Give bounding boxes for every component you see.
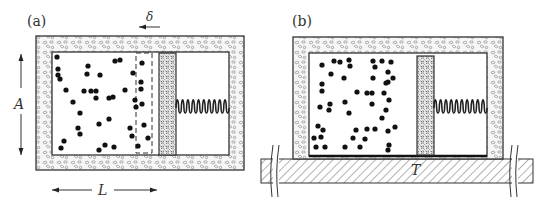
gas-particle bbox=[346, 57, 351, 62]
gas-particle bbox=[93, 95, 98, 100]
gas-particle bbox=[117, 57, 122, 62]
gas-particle bbox=[350, 135, 355, 140]
gas-particle bbox=[320, 127, 325, 132]
gas-particle bbox=[370, 58, 375, 63]
gas-particle bbox=[388, 59, 393, 64]
spring-icon bbox=[176, 100, 229, 113]
gas-particle bbox=[369, 90, 374, 95]
gas-particle bbox=[364, 90, 369, 95]
gas-particle bbox=[379, 115, 384, 120]
gas-particle bbox=[122, 87, 127, 92]
gas-particle bbox=[385, 147, 390, 152]
gas-particle bbox=[313, 144, 318, 149]
gas-particle bbox=[319, 88, 324, 93]
gas-particle bbox=[139, 101, 144, 106]
gas-particle bbox=[311, 135, 316, 140]
gas-particle bbox=[111, 144, 116, 149]
gas-particle bbox=[331, 58, 336, 63]
gas-particle bbox=[362, 136, 367, 141]
gas-particle bbox=[102, 142, 107, 147]
length-arrow-left-head-icon bbox=[52, 188, 59, 193]
gas-particle bbox=[326, 107, 331, 112]
gas-particle bbox=[385, 128, 390, 133]
gas-particle bbox=[390, 75, 395, 80]
gas-particle bbox=[138, 79, 143, 84]
gas-particle bbox=[319, 62, 324, 67]
gas-particle bbox=[317, 104, 322, 109]
gas-particle bbox=[322, 144, 327, 149]
gas-particle bbox=[319, 81, 324, 86]
gas-particle bbox=[133, 104, 138, 109]
gas-particle bbox=[364, 126, 369, 131]
gas-particle bbox=[96, 147, 101, 152]
gas-particle bbox=[127, 125, 132, 130]
height-arrow-down-head-icon bbox=[19, 148, 24, 155]
gas-particle bbox=[379, 58, 384, 63]
heat-reservoir bbox=[261, 159, 533, 183]
gas-particle bbox=[385, 69, 390, 74]
gas-particle bbox=[337, 59, 342, 64]
gas-particle bbox=[63, 87, 68, 92]
gas-particle bbox=[139, 60, 144, 65]
gas-particle bbox=[347, 63, 352, 68]
gas-particle bbox=[318, 134, 323, 139]
gas-particle bbox=[77, 131, 82, 136]
gas-particle bbox=[354, 89, 359, 94]
piston bbox=[417, 56, 434, 155]
gas-particle bbox=[75, 125, 80, 130]
gas-particle bbox=[372, 64, 377, 69]
gas-particle bbox=[81, 88, 86, 93]
gas-particle bbox=[145, 135, 150, 140]
gas-particle bbox=[57, 76, 62, 81]
delta-arrow-head-icon bbox=[139, 25, 146, 30]
gas-particle bbox=[357, 144, 362, 149]
gas-particle bbox=[383, 107, 388, 112]
spring-icon bbox=[434, 100, 487, 113]
gas-particle bbox=[58, 145, 63, 150]
gas-particle bbox=[342, 144, 347, 149]
gas-particle bbox=[55, 66, 60, 71]
gas-particle bbox=[110, 94, 115, 99]
gas-particle bbox=[61, 138, 66, 143]
gas-particle bbox=[130, 70, 135, 75]
thermodynamics-diagram bbox=[0, 0, 546, 204]
gas-particle bbox=[129, 133, 134, 138]
gas-particle bbox=[54, 54, 59, 59]
gas-particle bbox=[328, 71, 333, 76]
gas-particle bbox=[70, 99, 75, 104]
gas-particle bbox=[77, 110, 82, 115]
gas-particle bbox=[327, 101, 332, 106]
gas-particle bbox=[93, 88, 98, 93]
gas-particle bbox=[392, 124, 397, 129]
gas-particle bbox=[84, 71, 89, 76]
gas-particle bbox=[383, 80, 388, 85]
gas-particle bbox=[386, 97, 391, 102]
gas-particle bbox=[138, 86, 143, 91]
piston bbox=[159, 53, 176, 155]
gas-particle bbox=[106, 116, 111, 121]
gas-particle bbox=[341, 75, 346, 80]
gas-particle bbox=[88, 88, 93, 93]
gas-particle bbox=[132, 97, 137, 102]
gas-particle bbox=[369, 101, 374, 106]
gas-particle bbox=[85, 63, 90, 68]
gas-particle bbox=[386, 142, 391, 147]
gas-particle bbox=[381, 90, 386, 95]
gas-particle bbox=[353, 127, 358, 132]
gas-particle bbox=[96, 121, 101, 126]
gas-particle bbox=[346, 110, 351, 115]
length-arrow-right-head-icon bbox=[150, 188, 157, 193]
gas-particle bbox=[112, 58, 117, 63]
height-arrow-up-head-icon bbox=[19, 54, 24, 61]
gas-particle bbox=[315, 123, 320, 128]
gas-particle bbox=[135, 143, 140, 148]
gas-particle bbox=[97, 72, 102, 77]
gas-particle bbox=[342, 99, 347, 104]
gas-particle bbox=[141, 122, 146, 127]
gas-particle bbox=[372, 126, 377, 131]
gas-particle bbox=[370, 75, 375, 80]
